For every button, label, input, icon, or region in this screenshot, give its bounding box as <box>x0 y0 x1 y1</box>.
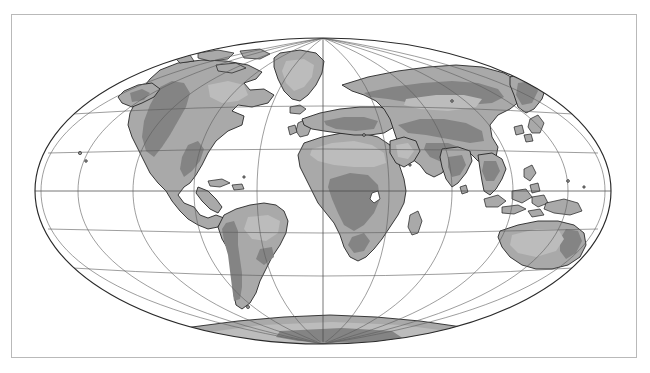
map-frame <box>11 14 637 358</box>
landmass-new-zealand <box>598 255 618 281</box>
world-map-svg <box>12 15 636 357</box>
page-root <box>0 0 650 373</box>
landmass-korea <box>514 125 524 135</box>
